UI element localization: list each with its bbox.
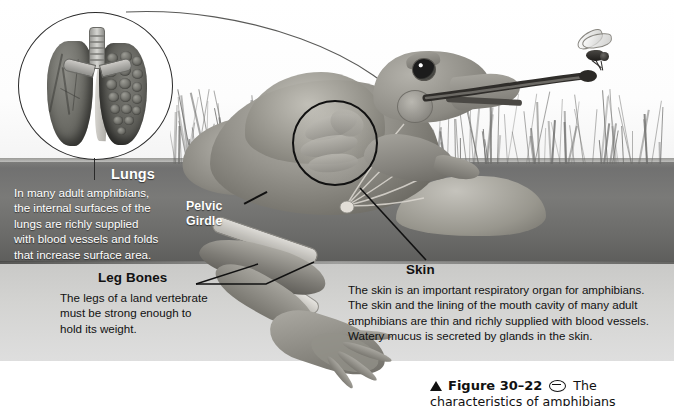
callout-lungs-line: with blood vessels and folds [14,231,234,246]
callout-skin-title: Skin [406,262,668,277]
callout-pelvic-girdle-line: Pelvic [186,199,270,214]
skin-leader-line [356,186,506,268]
left-lung [47,41,93,146]
grass-blade [592,109,597,164]
grass-blade [632,131,633,165]
callout-skin-line: The skin is an important respiratory org… [348,282,668,297]
callout-skin-line: amphibians are thin and richly supplied … [348,313,668,328]
callout-leg-bones-line: hold its weight. [60,321,256,336]
figure-caption-text: The [573,378,596,393]
figure-number: Figure 30–22 [448,378,542,393]
callout-skin-body: The skin is an important respiratory org… [348,282,668,344]
figure-caption-line2: characteristics of amphibians [430,394,674,406]
callout-skin-line: Watery mucus is secreted by glands in th… [348,328,668,343]
skin-magnification-circle [292,100,378,186]
callout-lungs-title: Lungs [32,166,234,182]
callout-leg-bones-body: The legs of a land vertebrate must be st… [46,290,256,336]
frog-tongue [424,72,602,102]
callout-leg-bones-title: Leg Bones [98,270,256,285]
grass-blade [660,107,663,164]
callout-lungs-line: that increase surface area. [14,247,234,262]
callout-pelvic-girdle: Pelvic Girdle [186,199,270,228]
callout-pelvic-girdle-line: Girdle [186,214,270,229]
grass-blade [658,142,660,164]
amphibian-figure: Lungs In many adult amphibians, the inte… [0,0,674,406]
callout-leg-bones-line: must be strong enough to [60,305,256,320]
callout-leg-bones-line: The legs of a land vertebrate [60,290,256,305]
callout-skin: Skin The skin is an important respirator… [348,262,668,344]
figure-caption: Figure 30–22 The characteristics of amph… [430,378,674,406]
callout-skin-line: The skin and the lining of the mouth cav… [348,297,668,312]
fly [570,30,618,70]
trachea [89,27,105,69]
triangle-up-icon [430,381,442,391]
oval-link-icon [549,380,566,392]
grass-blade [574,109,586,164]
callout-leg-bones: Leg Bones The legs of a land vertebrate … [46,270,256,336]
